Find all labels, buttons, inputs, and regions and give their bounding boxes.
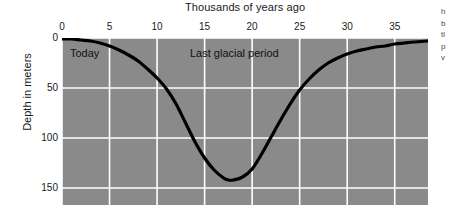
margin-text-line: v <box>441 52 455 64</box>
horizontal-gridlines <box>62 38 428 188</box>
x-tick-label: 25 <box>285 22 315 32</box>
x-tick-label: 30 <box>332 22 362 32</box>
x-tick-label: 10 <box>142 22 172 32</box>
plot-svg <box>62 38 428 205</box>
annotation-last-glacial-period: Last glacial period <box>190 47 279 59</box>
plot-area: Today Last glacial period <box>62 38 428 205</box>
sea-level-curve <box>62 39 428 180</box>
x-tick-label: 20 <box>237 22 267 32</box>
margin-clipped-text: hbtlpv <box>441 6 455 64</box>
annotation-today: Today <box>70 47 99 59</box>
margin-text-line: p <box>441 41 455 53</box>
x-tick-label: 0 <box>47 22 77 32</box>
margin-text-line: b <box>441 18 455 30</box>
margin-text-line: tl <box>441 29 455 41</box>
sea-level-chart-figure: Thousands of years ago Depth in meters 0… <box>0 0 455 214</box>
x-tick-label: 15 <box>190 22 220 32</box>
x-tick-label: 5 <box>95 22 125 32</box>
x-tick-label: 35 <box>380 22 410 32</box>
margin-text-line: h <box>441 6 455 18</box>
